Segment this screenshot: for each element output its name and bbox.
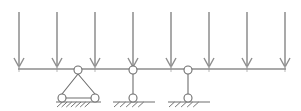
ground-hatch-2	[62, 102, 68, 107]
ground-hatch-1	[114, 102, 120, 107]
ground-hatch-7	[85, 102, 91, 107]
load-arrow-7	[242, 12, 252, 67]
support-group	[56, 66, 210, 107]
ground-hatch-5	[76, 102, 82, 107]
ground-hatch-4	[132, 102, 138, 107]
load-arrow-6	[204, 12, 214, 67]
support-base-pin-2	[91, 94, 99, 102]
ground-hatch-3	[181, 102, 187, 107]
ground-hatch-1	[57, 102, 63, 107]
ground-hatch-3	[126, 102, 131, 107]
support-member-1	[62, 74, 78, 94]
load-arrow-2	[52, 12, 62, 67]
support-base-pin-1	[184, 94, 192, 102]
load-arrow-8	[280, 12, 290, 67]
ground-hatch-4	[187, 102, 193, 107]
support-top-pin	[74, 66, 82, 74]
ground-hatch-4	[71, 102, 77, 107]
load-arrow-4	[128, 12, 138, 67]
ground-hatch-3	[66, 102, 72, 107]
vertical-link-support-2	[168, 66, 210, 107]
diagram-canvas	[0, 0, 301, 111]
beam-load-diagram	[0, 0, 301, 111]
support-top-pin	[129, 66, 137, 74]
ground-hatch-5	[193, 102, 199, 107]
support-base-pin-1	[58, 94, 66, 102]
ground-hatch-1	[169, 102, 175, 107]
load-arrow-5	[166, 12, 176, 67]
ground-hatch-5	[138, 102, 144, 107]
ground-hatch-2	[120, 102, 126, 107]
support-base-pin-1	[129, 94, 137, 102]
load-arrow-group	[14, 12, 290, 67]
support-top-pin	[184, 66, 192, 74]
load-arrow-1	[14, 12, 24, 67]
a-frame-support	[56, 66, 101, 107]
vertical-link-support-1	[113, 66, 155, 107]
load-arrow-3	[90, 12, 100, 67]
ground-hatch-2	[175, 102, 181, 107]
support-member-2	[78, 74, 95, 94]
ground-hatch-6	[80, 102, 86, 107]
